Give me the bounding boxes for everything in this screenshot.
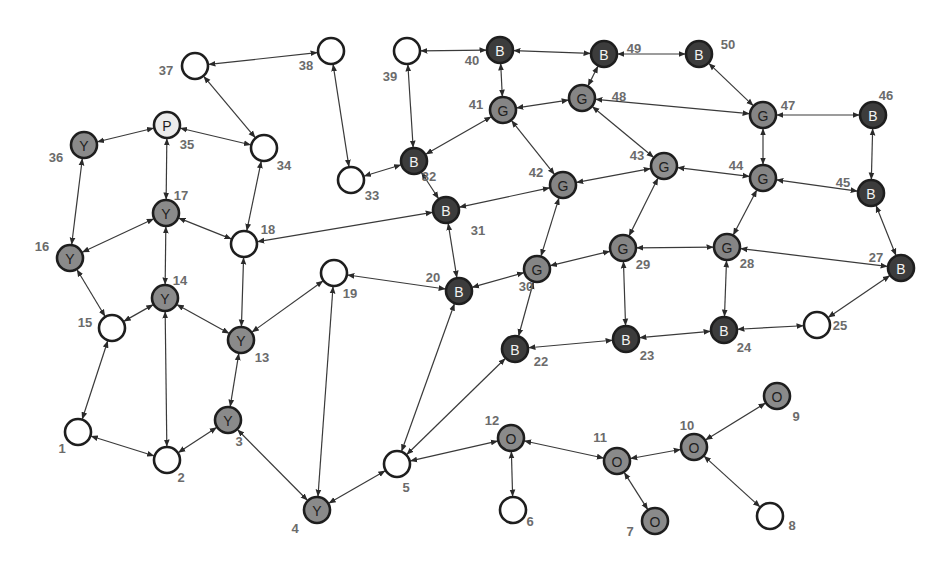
edge-2-14 [165,312,167,446]
graph-node-2: 2 [154,447,185,485]
edge-14-17 [165,227,166,284]
node-letter: O [772,389,783,405]
graph-node-6: 6 [500,497,534,529]
node-number-label: 16 [35,239,49,254]
node-number-label: 19 [343,286,357,301]
node-number-label: 12 [485,413,499,428]
graph-node-47: G47 [750,98,795,129]
graph-node-37: 37 [159,53,208,79]
edge-23-24 [640,331,710,337]
node-circle [500,497,526,523]
node-number-label: 47 [781,98,795,113]
node-letter: B [454,284,463,300]
node-letter: B [495,43,504,59]
edge-41-48 [517,100,568,108]
graph-node-35: P35 [154,112,194,152]
edge-32-39 [408,65,413,147]
edge-4-5 [329,471,385,503]
node-letter: O [612,454,623,470]
edge-14-15 [124,305,153,321]
edge-30-42 [541,198,559,255]
graph-node-18: 18 [231,222,275,258]
node-number-label: 6 [526,514,533,529]
node-letter: B [441,203,450,219]
edge-12-11 [525,441,604,458]
graph-node-3: Y3 [215,407,243,449]
graph-node-49: B49 [591,41,641,68]
edge-10-9 [706,403,765,439]
graph-node-11: O11 [593,430,630,475]
edge-24-28 [725,261,727,316]
node-number-label: 42 [529,165,543,180]
node-number-label: 15 [78,315,92,330]
node-circle [384,451,410,477]
node-number-label: 48 [612,89,626,104]
node-circle [757,503,783,529]
edge-42-43 [577,169,650,183]
node-letter: Y [223,413,233,429]
node-letter: B [896,261,905,277]
edge-39-40 [421,50,486,51]
edge-13-14 [177,305,228,333]
graph-node-50: B50 [686,37,735,68]
edge-20-30 [472,273,523,287]
edge-31-42 [460,188,550,207]
edge-48-49 [588,67,597,86]
graph-node-12: O12 [485,413,524,452]
graph-node-14: Y14 [152,273,188,312]
node-circle [394,38,420,64]
edge-28-44 [733,190,756,234]
node-letter: G [758,108,769,124]
node-number-label: 22 [534,354,548,369]
node-letter: Y [236,333,246,349]
edge-25-27 [829,276,890,317]
node-letter: Y [160,291,170,307]
edge-23-29 [623,262,625,325]
graph-node-24: B24 [711,317,752,355]
node-number-label: 30 [519,279,533,294]
node-number-label: 31 [471,223,485,238]
graph-node-32: B32 [401,148,436,184]
graph-node-28: G28 [714,234,754,271]
node-number-label: 4 [291,521,299,536]
node-number-label: 43 [630,148,644,163]
edge-28-29 [637,247,713,248]
node-number-label: 23 [640,348,654,363]
graph-node-25: 25 [804,312,847,338]
node-number-label: 13 [255,350,269,365]
node-number-label: 46 [879,88,893,103]
graph-node-29: G29 [610,235,650,272]
edge-17-35 [166,139,167,199]
node-letter: B [694,47,703,63]
node-circle [318,38,344,64]
node-circle [154,447,180,473]
edge-22-23 [529,340,612,347]
edge-2-3 [179,428,217,453]
node-letter: G [577,91,588,107]
edge-24-25 [738,326,803,329]
node-letter: B [621,332,630,348]
node-letter: O [506,431,517,447]
node-number-label: 3 [235,434,242,449]
edge-32-33 [364,165,400,176]
graph-node-41: G41 [469,97,516,124]
node-number-label: 37 [159,63,173,78]
edge-29-43 [629,179,657,236]
edge-50-47 [709,64,753,106]
node-number-label: 35 [180,137,194,152]
edge-17-18 [179,218,231,239]
graph-node-30: G30 [519,256,550,294]
node-circle [321,260,347,286]
network-graph: 12Y3Y456O78O9O10O11O12Y13Y1415Y16Y171819… [0,0,947,561]
graph-node-13: Y13 [228,327,269,365]
graph-node-15: 15 [78,315,125,342]
node-letter: B [409,154,418,170]
node-circle [251,135,277,161]
edge-40-41 [501,64,503,96]
node-number-label: 34 [277,158,292,173]
edge-3-13 [230,354,239,406]
graph-node-33: 33 [338,167,379,203]
node-number-label: 44 [729,158,744,173]
node-number-label: 11 [593,430,607,445]
edge-5-20 [402,304,455,451]
